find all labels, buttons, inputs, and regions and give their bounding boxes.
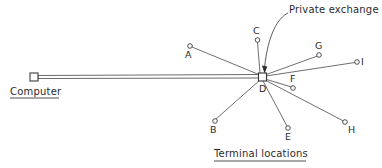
- link-hub-i: [266, 63, 355, 77]
- terminal-label-h: H: [348, 125, 355, 135]
- terminal-node-c: [255, 38, 260, 43]
- private-exchange-node: [259, 73, 267, 81]
- private-exchange-annotation: Private exchange: [289, 5, 379, 15]
- terminal-links: [192, 42, 355, 126]
- trunk-cable: [38, 75, 258, 79]
- terminal-node-f: [291, 86, 296, 91]
- terminal-label-g: G: [315, 41, 323, 51]
- computer-caption: Computer: [10, 87, 61, 97]
- link-hub-c: [258, 42, 261, 73]
- terminal-node-h: [343, 120, 348, 125]
- terminal-label-c: C: [253, 26, 260, 36]
- network-diagram: Private exchange Computer Terminal locat…: [0, 0, 382, 168]
- arrow-head-icon: [262, 66, 267, 74]
- link-hub-f: [265, 79, 292, 87]
- link-hub-e: [263, 81, 287, 126]
- computer-node: [30, 73, 38, 81]
- terminal-node-g: [317, 53, 322, 58]
- terminal-label-a: A: [185, 50, 192, 60]
- link-hub-a: [192, 47, 260, 75]
- network-diagram-canvas: [0, 0, 382, 168]
- terminal-node-i: [355, 60, 360, 65]
- terminal-locations-caption: Terminal locations: [214, 149, 308, 159]
- terminal-node-a: [188, 44, 193, 49]
- terminal-label-f: F: [290, 74, 296, 84]
- terminal-node-e: [286, 126, 291, 131]
- terminal-label-b: B: [210, 125, 217, 135]
- annotation-leader: [262, 13, 288, 74]
- terminal-label-i: I: [361, 57, 364, 67]
- link-hub-b: [216, 80, 260, 119]
- terminal-node-b: [213, 119, 218, 124]
- hub-label-d: D: [259, 84, 267, 94]
- terminal-label-e: E: [285, 132, 291, 142]
- link-hub-h: [265, 80, 344, 121]
